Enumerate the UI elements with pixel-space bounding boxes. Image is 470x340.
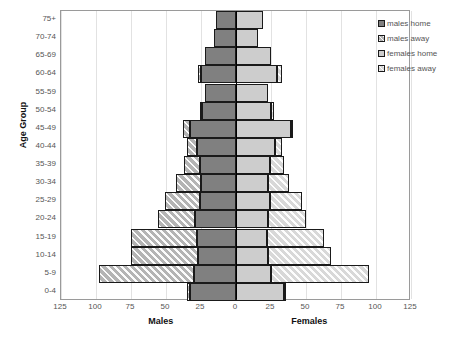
bar-females-away (268, 247, 331, 265)
bar-males-home (195, 210, 236, 228)
population-pyramid-chart: Age Group 75+70-7465-6960-6455-5950-5445… (0, 0, 470, 340)
bar-females-home (236, 120, 291, 138)
bar-males-home (190, 283, 236, 301)
bar-females-home (236, 247, 268, 265)
bar-females-away (268, 210, 306, 228)
chart-legend: males homemales awayfemales homefemales … (378, 16, 437, 76)
legend-item-label: females home (387, 49, 437, 58)
pyramid-row (61, 192, 409, 210)
pyramid-row (61, 247, 409, 265)
bar-males-home (197, 229, 236, 247)
y-tick-40-44: 40-44 (4, 141, 56, 150)
bar-females-home (236, 65, 277, 83)
bar-females-home (236, 84, 268, 102)
bar-males-home (200, 156, 236, 174)
y-tick-70-74: 70-74 (4, 32, 56, 41)
legend-swatch-icon (378, 20, 385, 27)
bar-females-home (236, 283, 284, 301)
x-tick-label: 75 (110, 302, 150, 311)
bar-females-home (236, 156, 270, 174)
x-tick-label: 125 (40, 302, 80, 311)
bar-females-away (268, 174, 289, 192)
y-tick-20-24: 20-24 (4, 213, 56, 222)
bar-males-home (205, 47, 236, 65)
bar-males-home (202, 102, 236, 120)
bar-females-home (236, 102, 271, 120)
pyramid-row (61, 120, 409, 138)
bar-females-home (236, 210, 268, 228)
bar-males-away (158, 210, 196, 228)
plot-area (60, 10, 410, 300)
legend-item-fa[interactable]: females away (378, 61, 437, 76)
bar-females-away (291, 120, 294, 138)
y-tick-45-49: 45-49 (4, 123, 56, 132)
pyramid-row (61, 138, 409, 156)
pyramid-row (61, 174, 409, 192)
y-tick-65-69: 65-69 (4, 50, 56, 59)
x-tick-label: 50 (145, 302, 185, 311)
x-tick-label: 25 (250, 302, 290, 311)
bar-females-home (236, 174, 268, 192)
legend-item-mh[interactable]: males home (378, 16, 437, 31)
bar-males-away (131, 229, 197, 247)
legend-swatch-icon (378, 65, 385, 72)
pyramid-row (61, 11, 409, 29)
x-tick-label: 75 (320, 302, 360, 311)
bar-males-home (205, 84, 236, 102)
bar-males-home (198, 247, 236, 265)
bar-females-home (236, 29, 258, 47)
bar-females-away (275, 138, 282, 156)
x-tick-label: 50 (285, 302, 325, 311)
pyramid-row (61, 265, 409, 283)
bar-males-home (190, 120, 236, 138)
legend-swatch-icon (378, 50, 385, 57)
bar-females-home (236, 229, 267, 247)
bar-males-away (183, 120, 190, 138)
bar-females-away (270, 192, 302, 210)
y-tick-35-39: 35-39 (4, 159, 56, 168)
x-tick-label: 25 (180, 302, 220, 311)
bar-males-home (216, 11, 236, 29)
bar-females-home (236, 265, 271, 283)
y-tick-0-4: 0-4 (4, 286, 56, 295)
bar-females-away (284, 283, 287, 301)
legend-item-label: males home (387, 19, 431, 28)
pyramid-row (61, 156, 409, 174)
bar-females-away (267, 229, 324, 247)
bar-males-home (197, 138, 236, 156)
pyramid-row (61, 84, 409, 102)
legend-swatch-icon (378, 35, 385, 42)
bar-females-home (236, 192, 270, 210)
pyramid-row (61, 65, 409, 83)
bar-females-home (236, 11, 263, 29)
y-tick-50-54: 50-54 (4, 105, 56, 114)
bar-females-away (277, 65, 283, 83)
bar-males-away (187, 138, 197, 156)
pyramid-row (61, 29, 409, 47)
bar-males-away (165, 192, 200, 210)
bar-males-home (194, 265, 236, 283)
y-tick-10-14: 10-14 (4, 250, 56, 259)
bar-females-home (236, 138, 275, 156)
legend-item-fh[interactable]: females home (378, 46, 437, 61)
x-tick-label: 0 (215, 302, 255, 311)
pyramid-row (61, 283, 409, 301)
y-tick-5-9: 5-9 (4, 268, 56, 277)
x-tick-label: 125 (390, 302, 430, 311)
legend-item-ma[interactable]: males away (378, 31, 437, 46)
bar-males-home (201, 174, 236, 192)
x-tick-label: 100 (75, 302, 115, 311)
x-axis-title-females: Females (274, 316, 344, 326)
y-tick-15-19: 15-19 (4, 232, 56, 241)
bar-females-home (236, 47, 271, 65)
y-tick-60-64: 60-64 (4, 68, 56, 77)
y-tick-25-29: 25-29 (4, 195, 56, 204)
bar-females-away (270, 156, 284, 174)
bar-males-away (176, 174, 201, 192)
pyramid-row (61, 229, 409, 247)
bar-males-away (184, 156, 199, 174)
y-tick-55-59: 55-59 (4, 87, 56, 96)
y-tick-75plus: 75+ (4, 14, 56, 23)
bar-males-home (201, 65, 236, 83)
legend-item-label: males away (387, 34, 429, 43)
